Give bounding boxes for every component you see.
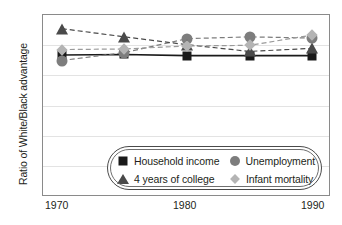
data-point-marker — [183, 51, 192, 60]
data-point-marker — [306, 43, 318, 54]
diamond-marker-icon — [228, 172, 242, 186]
chart-figure: Ratio of White/Black advantage 3 2 1 0 1… — [0, 0, 342, 225]
legend-row: 4 years of college Infant mortality — [116, 170, 315, 188]
x-tick-label: 1970 — [45, 199, 68, 211]
x-tick-label: 1980 — [173, 199, 196, 211]
legend-label: Unemployment — [246, 155, 315, 167]
legend-label: Infant mortality — [246, 173, 313, 185]
triangle-marker-icon — [116, 172, 130, 186]
legend-item-infant-mortality[interactable]: Infant mortality — [228, 172, 313, 186]
legend-item-4-years-of-college[interactable]: 4 years of college — [116, 172, 228, 186]
legend-row: Household income Unemployment — [116, 152, 315, 170]
x-tick-label: 1990 — [301, 199, 324, 211]
legend-item-household-income[interactable]: Household income — [116, 154, 228, 168]
data-point-marker — [118, 31, 130, 42]
square-marker-icon — [116, 154, 130, 168]
data-point-marker — [56, 55, 67, 66]
chart-legend[interactable]: Household income Unemployment 4 years of… — [107, 146, 322, 190]
circle-marker-icon — [228, 154, 242, 168]
y-axis-title: Ratio of White/Black advantage — [17, 29, 29, 199]
legend-item-unemployment[interactable]: Unemployment — [228, 154, 315, 168]
data-point-marker — [56, 23, 68, 34]
legend-label: 4 years of college — [134, 173, 215, 185]
legend-label: Household income — [134, 155, 219, 167]
